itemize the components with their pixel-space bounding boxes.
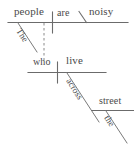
sentence-diagram: people are noisy The who live across str… bbox=[0, 0, 134, 147]
diagram-lines bbox=[0, 0, 134, 147]
word-object-of-preposition: street bbox=[99, 95, 121, 106]
word-predicate-adjective: noisy bbox=[89, 6, 113, 17]
word-relative-pronoun: who bbox=[33, 56, 51, 67]
word-subject: people bbox=[14, 6, 44, 17]
word-relative-verb: live bbox=[66, 55, 83, 66]
word-linking-verb: are bbox=[57, 7, 70, 18]
predicate-adjective-divider bbox=[79, 12, 87, 23]
